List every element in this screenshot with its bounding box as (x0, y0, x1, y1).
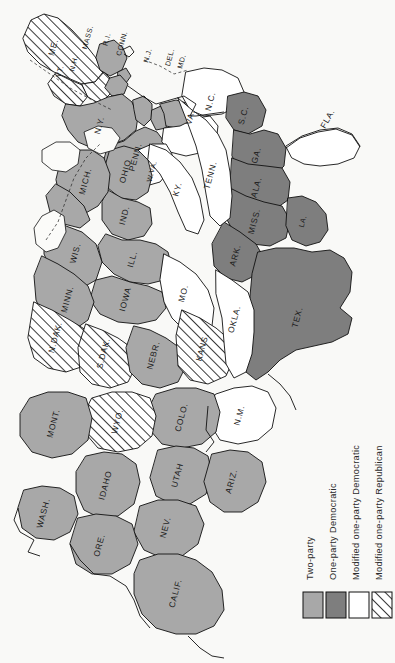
legend-swatch-modified-one-party-democratic (349, 592, 369, 618)
legend-label-one-party-democratic: One-party Democratic (328, 483, 338, 580)
map-page: ME. N.H. VT. MASS. R.I. CONN. N.Y. N.J. … (0, 0, 395, 663)
legend-swatch-one-party-democratic (326, 592, 346, 618)
legend-swatch-two-party (303, 592, 323, 618)
legend-label-modified-one-party-republican: Modified one-party Republican (374, 445, 384, 580)
legend-label-two-party: Two-party (305, 536, 315, 580)
us-party-competition-map: ME. N.H. VT. MASS. R.I. CONN. N.Y. N.J. … (0, 0, 395, 663)
legend-label-modified-one-party-democratic: Modified one-party Democratic (351, 445, 361, 580)
legend-swatch-modified-one-party-republican (372, 592, 392, 618)
